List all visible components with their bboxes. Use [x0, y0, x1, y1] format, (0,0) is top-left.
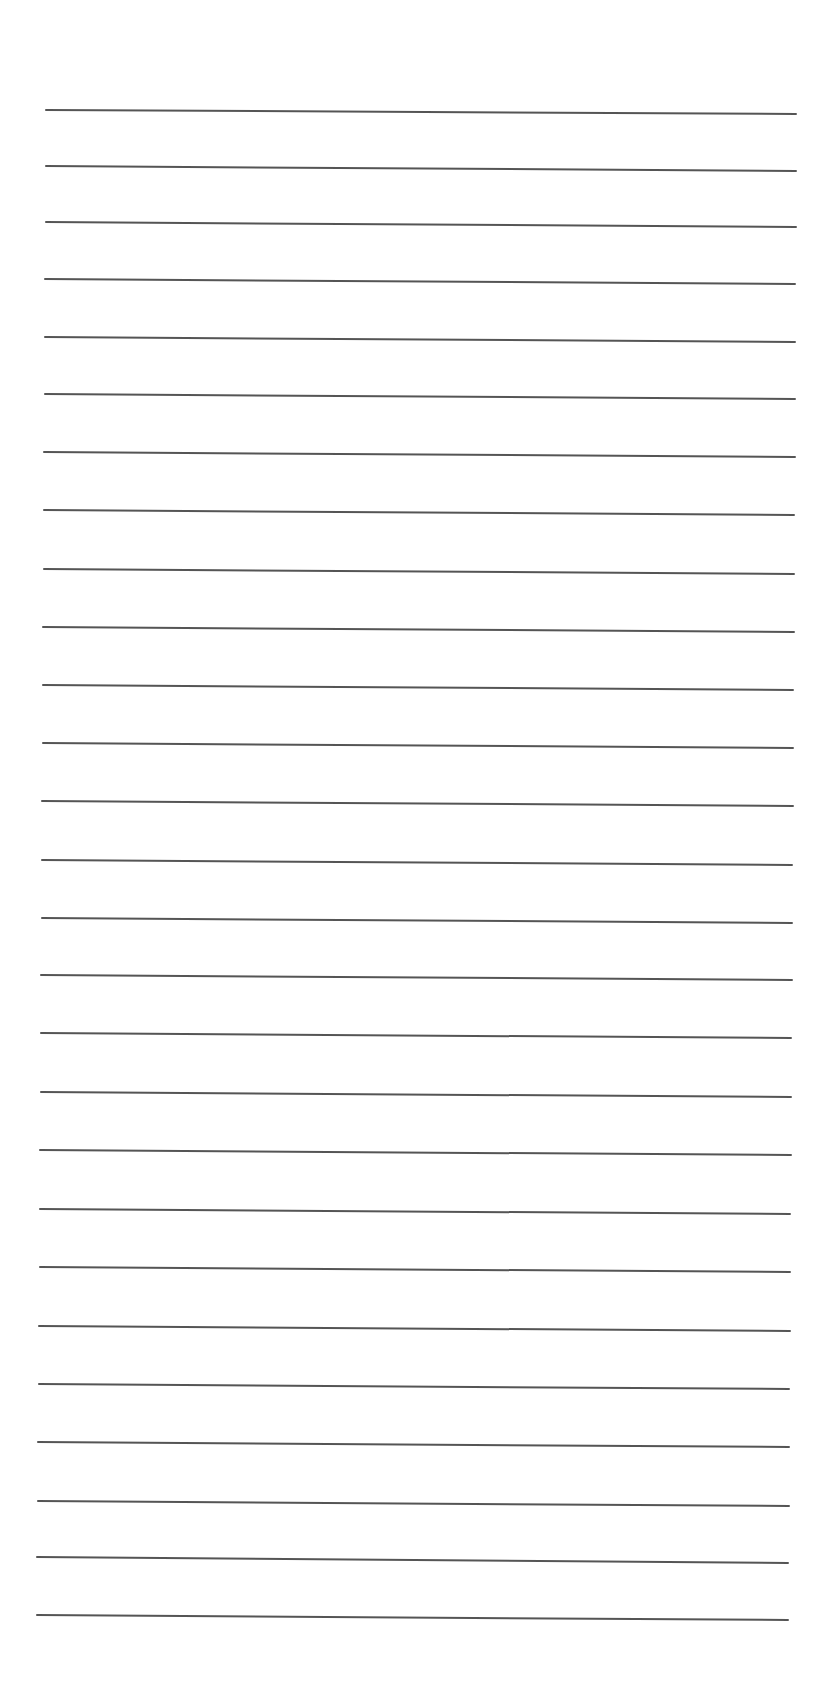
ruled-line-2 — [46, 166, 796, 171]
ruled-line-7 — [44, 452, 795, 457]
ruled-line-17 — [41, 1033, 791, 1038]
ruled-line-6 — [45, 394, 795, 399]
ruled-line-25 — [38, 1501, 789, 1506]
ruled-line-14 — [42, 860, 792, 865]
ruled-line-24 — [38, 1442, 789, 1447]
ruled-line-12 — [43, 743, 793, 748]
ruled-line-22 — [39, 1326, 790, 1331]
ruled-line-8 — [44, 510, 794, 515]
ruled-line-19 — [40, 1150, 791, 1155]
ruled-line-20 — [40, 1209, 790, 1214]
ruled-line-26 — [37, 1557, 788, 1563]
ruled-line-13 — [42, 801, 793, 806]
ruled-line-9 — [44, 569, 794, 574]
ruled-line-5 — [45, 337, 795, 342]
ruled-line-11 — [43, 685, 793, 690]
ruled-line-3 — [46, 222, 796, 227]
ruled-line-27 — [37, 1615, 788, 1620]
ruled-line-4 — [45, 279, 795, 284]
ruled-line-23 — [39, 1384, 789, 1389]
ruled-line-21 — [40, 1267, 790, 1272]
ruled-lines — [0, 0, 827, 1700]
ruled-line-10 — [43, 627, 794, 632]
ruled-line-16 — [41, 975, 792, 980]
ruled-line-15 — [42, 918, 792, 923]
ruled-line-18 — [41, 1092, 791, 1097]
ruled-line-1 — [46, 110, 796, 114]
